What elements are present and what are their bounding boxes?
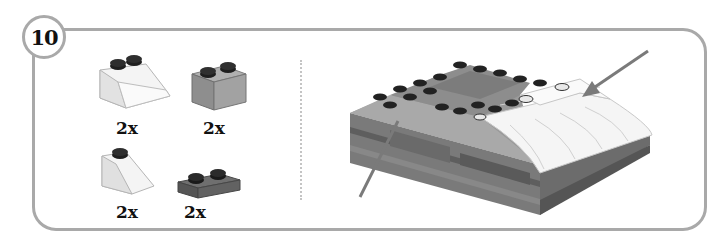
part-quantity: 2x (203, 118, 225, 138)
dotted-divider (300, 60, 302, 200)
slope-1x2-white-icon (96, 146, 160, 198)
step-number-badge: 10 (22, 15, 66, 59)
part-quantity: 2x (116, 202, 138, 222)
brick-1x2-gray-icon (188, 52, 252, 114)
slope-2x2-white-icon (96, 52, 176, 114)
step-number: 10 (30, 25, 57, 50)
part-quantity: 2x (184, 202, 206, 222)
part-quantity: 2x (116, 118, 138, 138)
plate-1x2-dark-gray-icon (174, 166, 246, 202)
assembly-model-illustration (330, 35, 670, 225)
